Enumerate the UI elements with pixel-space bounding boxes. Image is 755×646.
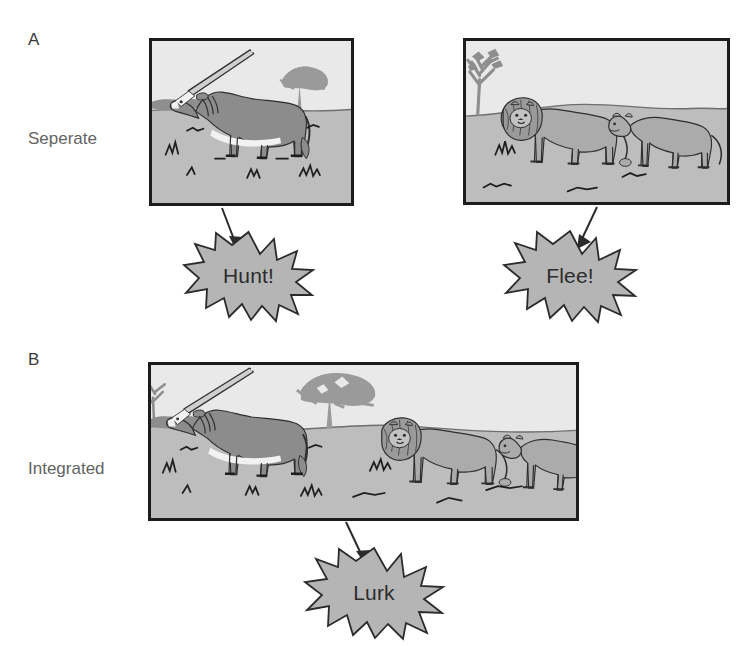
panel-letter-a: A: [28, 30, 39, 50]
callout-hunt[interactable]: Hunt!: [182, 229, 315, 323]
integrated-scene-art: [151, 365, 576, 518]
scene-oryx[interactable]: [149, 38, 354, 206]
row-label-seperate: Seperate: [28, 129, 97, 149]
scene-lions[interactable]: [463, 38, 730, 205]
starburst-shape: [502, 228, 638, 324]
row-label-integrated: Integrated: [28, 459, 105, 479]
starburst-shape: [182, 229, 315, 323]
callout-lurk[interactable]: Lurk: [303, 545, 445, 641]
lions-scene-art: [466, 41, 727, 202]
figure-canvas: A Seperate: [0, 0, 755, 646]
callout-flee[interactable]: Flee!: [502, 228, 638, 324]
oryx-scene-art: [152, 41, 351, 203]
panel-letter-b: B: [28, 350, 39, 370]
scene-integrated[interactable]: [148, 362, 579, 521]
starburst-shape: [303, 545, 445, 641]
